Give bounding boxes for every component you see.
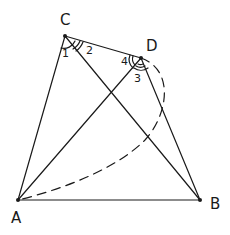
segment-ca <box>18 36 65 200</box>
label-c: C <box>60 11 70 29</box>
angle-label-4: 4 <box>121 55 128 68</box>
angle-label-2: 2 <box>86 44 93 57</box>
angle-3-arc-a <box>136 66 145 67</box>
label-b: B <box>210 195 220 213</box>
point-d-dot <box>139 56 143 60</box>
point-c-dot <box>63 34 67 38</box>
label-d: D <box>146 37 158 55</box>
angle-4-arc-a <box>133 56 135 65</box>
angle-3-arc-c <box>138 64 143 65</box>
segment-db <box>141 58 200 200</box>
point-b-dot <box>198 198 202 202</box>
point-a-dot <box>16 198 20 202</box>
angle-label-3: 3 <box>134 72 141 85</box>
label-a: A <box>11 209 22 227</box>
angle-label-1: 1 <box>62 47 69 60</box>
segment-da <box>18 58 141 200</box>
geometry-diagram: C D A B 1 2 4 3 <box>0 0 230 235</box>
dashed-arc <box>18 58 164 200</box>
